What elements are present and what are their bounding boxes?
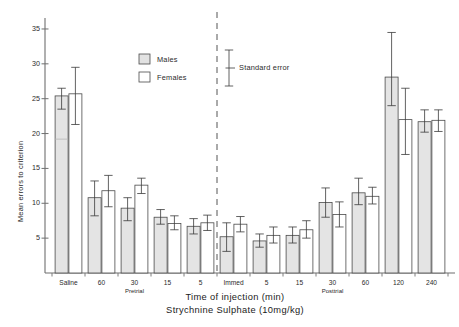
bar-group-5-males [253, 234, 266, 273]
bar-females [432, 120, 445, 273]
bar-group-5-females [267, 227, 280, 273]
bar-females [135, 185, 148, 273]
x-axis-title: Time of injection (min) [110, 292, 360, 302]
bar-group-30-females [135, 178, 148, 273]
y-axis-title: Mean errors to criterion [16, 141, 25, 222]
x-tick-label: 240 [408, 279, 456, 286]
bar-females [366, 196, 379, 273]
legend-swatch-females [139, 72, 150, 82]
bar-group-120-males [385, 32, 398, 273]
x-axis-subtitle: Strychnine Sulphate (10mg/kg) [110, 305, 360, 315]
chart-canvas [0, 0, 459, 327]
bar-group-120-females [399, 88, 412, 273]
bar-group-5-males [187, 219, 200, 273]
bar-males [154, 217, 167, 273]
bar-group-Saline-females [69, 67, 82, 273]
bar-group-60-males [88, 181, 101, 273]
y-tick-label: 35 [18, 24, 40, 33]
bar-group-60-males [352, 178, 365, 273]
bar-females [168, 223, 181, 273]
legend-label-females: Females [157, 73, 187, 82]
bar-group-60-females [366, 187, 379, 273]
bar-group-240-females [432, 110, 445, 273]
se-legend-label: Standard error [239, 63, 289, 72]
bar-group-30-females [333, 202, 346, 273]
y-tick-label: 30 [18, 59, 40, 68]
y-tick-label: 20 [18, 129, 40, 138]
bar-group-Saline-males [55, 88, 68, 273]
bar-group-5-females [201, 215, 214, 273]
bar-group-15-females [168, 216, 181, 273]
legend-swatch-males [139, 54, 150, 64]
legend-label-males: Males [157, 55, 178, 64]
bar-males [385, 77, 398, 273]
bar-group-60-females [102, 175, 115, 273]
bar-group-30-males [319, 188, 332, 273]
bar-group-Immed-males [220, 223, 233, 273]
bar-group-15-males [286, 227, 299, 273]
bar-group-Immed-females [234, 217, 247, 273]
y-tick-label: 25 [18, 94, 40, 103]
bar-males [418, 122, 431, 273]
bar-males [55, 96, 68, 273]
figure-bar-chart: 5101520253035Saline6030155Immed515306012… [0, 0, 459, 327]
bar-group-30-males [121, 198, 134, 273]
bar-group-15-females [300, 221, 313, 273]
bar-group-15-males [154, 210, 167, 273]
y-tick-label: 5 [18, 233, 40, 242]
bar-group-240-males [418, 110, 431, 273]
